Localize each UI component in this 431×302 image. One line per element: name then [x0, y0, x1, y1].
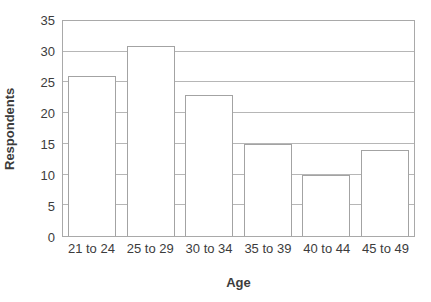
- bar-slot: [239, 21, 298, 236]
- plot-area: [62, 20, 415, 237]
- bar-40-to-44: [302, 175, 350, 236]
- y-tick-label: 20: [41, 107, 55, 120]
- bar-slot: [297, 21, 356, 236]
- y-tick-label: 10: [41, 169, 55, 182]
- x-axis-title: Age: [62, 276, 415, 289]
- bar-slot: [63, 21, 122, 236]
- bar-30-to-34: [185, 95, 233, 236]
- y-tick-label: 5: [48, 200, 55, 213]
- y-tick-label: 15: [41, 138, 55, 151]
- x-tick-label: 25 to 29: [121, 242, 180, 255]
- bars-layer: [63, 21, 414, 236]
- y-tick-label: 35: [41, 14, 55, 27]
- x-tick-label: 30 to 34: [180, 242, 239, 255]
- bar-slot: [180, 21, 239, 236]
- bar-21-to-24: [68, 76, 116, 236]
- y-axis-tick-labels: 05101520253035: [0, 20, 58, 237]
- bar-35-to-39: [244, 144, 292, 236]
- y-tick-label: 30: [41, 45, 55, 58]
- bar-slot: [122, 21, 181, 236]
- bar-25-to-29: [127, 46, 175, 236]
- x-tick-label: 21 to 24: [62, 242, 121, 255]
- bar-chart-figure: Respondents 05101520253035 21 to 2425 to…: [0, 0, 431, 302]
- y-tick-label: 25: [41, 76, 55, 89]
- bar-45-to-49: [361, 150, 409, 236]
- x-tick-label: 40 to 44: [297, 242, 356, 255]
- x-axis-tick-labels: 21 to 2425 to 2930 to 3435 to 3940 to 44…: [62, 242, 415, 255]
- bar-slot: [356, 21, 415, 236]
- x-tick-label: 45 to 49: [356, 242, 415, 255]
- x-tick-label: 35 to 39: [238, 242, 297, 255]
- y-tick-label: 0: [48, 231, 55, 244]
